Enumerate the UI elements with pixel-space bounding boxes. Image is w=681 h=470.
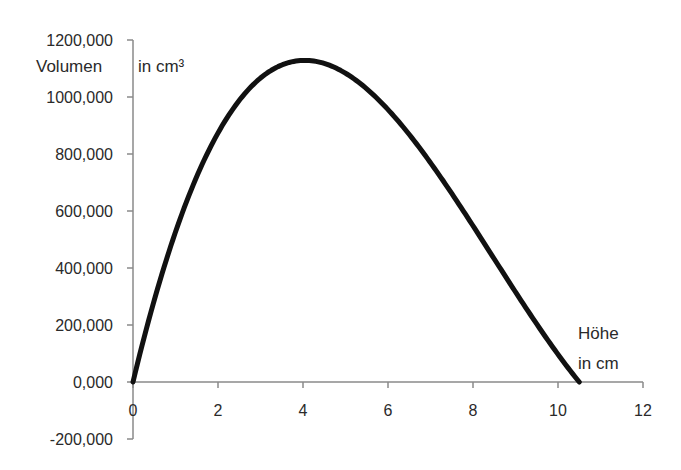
x-tick-label: 6 [384,402,393,419]
volume-chart: -200,0000,000200,000400,000600,000800,00… [0,0,681,470]
y-tick-label: 200,000 [55,317,113,334]
y-tick-label: 1000,000 [46,89,113,106]
x-tick-label: 8 [469,402,478,419]
x-tick-label: 2 [214,402,223,419]
y-tick-label: 1200,000 [46,32,113,49]
x-tick-label: 4 [299,402,308,419]
x-axis-title-line2: in cm [578,354,619,373]
plot-area [133,60,579,382]
y-tick-label: 600,000 [55,203,113,220]
y-axis: -200,0000,000200,000400,000600,000800,00… [46,32,133,448]
x-tick-label: 12 [634,402,652,419]
y-tick-label: 0,000 [73,374,113,391]
x-axis: 024681012 [129,382,652,419]
y-tick-label: 800,000 [55,146,113,163]
y-axis-title: Volumen [36,57,102,76]
y-axis-unit: in cm³ [138,57,185,76]
x-axis-title-line1: Höhe [578,324,619,343]
chart-canvas: -200,0000,000200,000400,000600,000800,00… [0,0,681,470]
x-tick-label: 10 [549,402,567,419]
x-tick-label: 0 [129,402,138,419]
y-tick-label: 400,000 [55,260,113,277]
y-tick-label: -200,000 [50,431,113,448]
volume-curve [133,60,579,382]
